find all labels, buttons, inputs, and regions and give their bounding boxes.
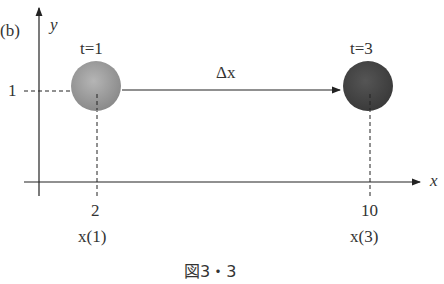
y-axis-label: y bbox=[50, 16, 58, 33]
x-value-3: 10 bbox=[361, 202, 378, 219]
displacement-label: Δx bbox=[216, 64, 235, 81]
x-value-1: 2 bbox=[91, 202, 100, 219]
ball-t1 bbox=[71, 61, 121, 111]
y-tick-label: 1 bbox=[8, 82, 17, 99]
ball-t3 bbox=[343, 61, 393, 111]
time-label-t1: t=1 bbox=[80, 40, 103, 57]
x-axis-label: x bbox=[430, 172, 438, 189]
time-label-t3: t=3 bbox=[350, 40, 373, 57]
panel-label: (b) bbox=[0, 22, 20, 39]
figure-caption: 図3・3 bbox=[184, 258, 236, 282]
x-func-1: x(1) bbox=[78, 228, 106, 245]
x-func-3: x(3) bbox=[350, 228, 378, 245]
